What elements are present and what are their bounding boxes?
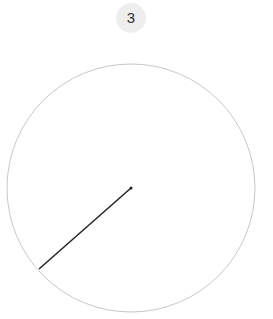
dial[interactable] <box>0 0 273 319</box>
dial-hand[interactable] <box>39 188 131 269</box>
dial-center-dot <box>130 187 133 190</box>
